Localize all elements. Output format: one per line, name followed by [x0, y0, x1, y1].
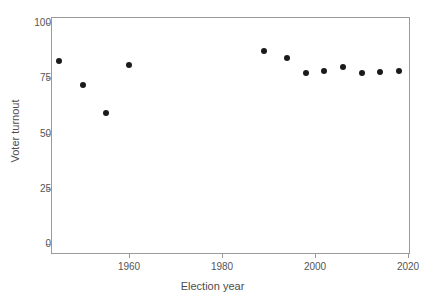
x-tick-mark	[129, 254, 130, 258]
x-tick-mark	[315, 254, 316, 258]
y-tick-label: 50	[40, 129, 51, 139]
x-tick-mark	[222, 254, 223, 258]
y-tick-label: 25	[40, 184, 51, 194]
y-axis-title: Voter turnout	[9, 71, 21, 191]
x-axis-title: Election year	[0, 280, 425, 292]
y-tick-label: 0	[45, 239, 51, 249]
y-tick-label: 100	[34, 18, 51, 28]
x-tick-label: 1980	[211, 262, 233, 272]
y-tick-label: 75	[40, 73, 51, 83]
x-tick-label: 2020	[397, 262, 419, 272]
plot-area	[51, 17, 410, 254]
x-tick-label: 1960	[118, 262, 140, 272]
x-tick-label: 2000	[304, 262, 326, 272]
x-tick-mark	[408, 254, 409, 258]
scatter-chart: 0255075100 1960198020002020 Election yea…	[0, 0, 425, 300]
